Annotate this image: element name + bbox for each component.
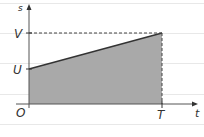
origin-label: O bbox=[16, 106, 25, 120]
y-axis-arrow-icon bbox=[27, 4, 32, 10]
label-v: V bbox=[14, 27, 23, 41]
graph-canvas: s V U O T t bbox=[0, 0, 204, 137]
y-axis-label: s bbox=[18, 3, 23, 13]
label-t-end: T bbox=[157, 108, 166, 122]
label-u: U bbox=[13, 63, 22, 77]
graph-figure: s V U O T t bbox=[0, 0, 204, 137]
x-axis-label: t bbox=[195, 107, 200, 120]
shaded-area bbox=[29, 33, 162, 104]
x-axis-arrow-icon bbox=[192, 102, 198, 107]
